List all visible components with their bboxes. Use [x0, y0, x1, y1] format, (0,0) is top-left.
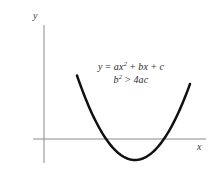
- figure-background: [0, 0, 218, 183]
- y-axis-label: y: [33, 11, 37, 21]
- equation-annotation: y = ax2 + bx + c b2 > 4ac: [64, 60, 198, 86]
- equation-line-discriminant: b2 > 4ac: [64, 73, 198, 86]
- plus-sign-1: +: [130, 61, 136, 72]
- plot-canvas: [0, 0, 218, 183]
- discriminant-rhs: 4ac: [133, 74, 148, 85]
- equation-lhs: y: [98, 61, 103, 72]
- plus-sign-2: +: [151, 61, 157, 72]
- term2-variable: x: [144, 61, 149, 72]
- term3-constant: c: [159, 61, 164, 72]
- equation-line-quadratic: y = ax2 + bx + c: [64, 60, 198, 73]
- term1-exponent: 2: [124, 60, 127, 67]
- equals-sign: =: [105, 61, 111, 72]
- greater-than-sign: >: [125, 74, 131, 85]
- parabola-figure: y x y = ax2 + bx + c b2 > 4ac: [0, 0, 218, 183]
- discriminant-lhs-exponent: 2: [119, 73, 122, 80]
- x-axis-label: x: [197, 142, 201, 152]
